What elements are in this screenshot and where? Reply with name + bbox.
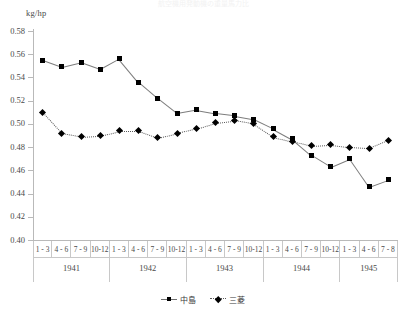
plot-area: [33, 31, 398, 240]
y-axis-tick-label: 0.58: [0, 26, 25, 36]
x-axis-quarter-label: 10-12: [244, 241, 263, 258]
x-axis-quarter-label: 1 - 3: [340, 241, 359, 258]
y-axis-tick-label: 0.40: [0, 235, 25, 245]
quarter-label-band: 1 - 34 - 67 - 910-121 - 34 - 67 - 910-12…: [33, 241, 398, 258]
data-point-三菱: [193, 125, 200, 132]
year-label-band: 19411942194319441945: [33, 258, 398, 282]
data-point-中島: [213, 111, 218, 116]
y-axis-tick-label: 0.48: [0, 142, 25, 152]
data-point-三菱: [174, 130, 181, 137]
data-point-三菱: [308, 142, 315, 149]
y-axis-tick-label: 0.54: [0, 72, 25, 82]
x-axis-quarter-label: 7 - 9: [225, 241, 244, 258]
y-axis-tick-label: 0.46: [0, 165, 25, 175]
data-point-中島: [40, 58, 45, 63]
x-axis-year-label: 1943: [187, 258, 264, 282]
data-point-中島: [347, 156, 352, 161]
x-axis-quarter-label: 1 - 3: [264, 241, 283, 258]
x-axis-quarter-label: 7 - 9: [302, 241, 321, 258]
data-point-三菱: [385, 137, 392, 144]
data-point-三菱: [97, 132, 104, 139]
y-axis-tick-label: 0.42: [0, 211, 25, 221]
legend-marker-diamond-icon: [215, 296, 221, 302]
legend-line-swatch: [210, 298, 226, 300]
data-point-三菱: [135, 127, 142, 134]
x-axis-year-label: 1941: [33, 258, 110, 282]
x-axis-quarter-label: 4 - 6: [360, 241, 379, 258]
y-axis-tick-label: 0.56: [0, 49, 25, 59]
x-axis-quarter-label: 1 - 3: [33, 241, 52, 258]
y-axis-unit-label: kg/hp: [26, 8, 46, 18]
data-point-中島: [194, 107, 199, 112]
x-axis-year-label: 1942: [110, 258, 187, 282]
data-point-中島: [79, 60, 84, 65]
data-point-中島: [136, 80, 141, 85]
legend-marker-square-icon: [167, 297, 172, 302]
x-axis-quarter-label: 7 - 9: [71, 241, 90, 258]
data-point-中島: [328, 164, 333, 169]
y-axis-tick-label: 0.44: [0, 188, 25, 198]
x-axis-year-label: 1944: [264, 258, 341, 282]
data-point-中島: [59, 64, 64, 69]
chart-root: 航空機用発動機の重量馬力比 kg/hp 0.580.560.540.520.50…: [0, 0, 406, 310]
x-axis-quarter-label: 10-12: [91, 241, 110, 258]
data-point-中島: [155, 96, 160, 101]
x-axis-quarter-label: 4 - 6: [129, 241, 148, 258]
series-line-segment-中島: [349, 159, 369, 187]
data-point-三菱: [154, 134, 161, 141]
legend-label: 中島: [180, 294, 196, 305]
x-axis-quarter-label: 10-12: [167, 241, 186, 258]
legend-item-中島[interactable]: 中島: [161, 294, 196, 305]
x-axis-year-label: 1945: [340, 258, 398, 282]
data-point-三菱: [77, 133, 84, 140]
legend-line-swatch: [161, 299, 177, 300]
data-point-三菱: [116, 127, 123, 134]
chart-legend: 中島三菱: [0, 292, 406, 306]
data-point-三菱: [270, 133, 277, 140]
chart-title: 航空機用発動機の重量馬力比: [0, 0, 406, 9]
data-point-中島: [117, 56, 122, 61]
data-point-三菱: [327, 141, 334, 148]
legend-item-三菱[interactable]: 三菱: [210, 294, 245, 305]
data-point-三菱: [346, 144, 353, 151]
data-point-中島: [271, 126, 276, 131]
x-axis-quarter-label: 7 - 8: [379, 241, 398, 258]
y-axis-tick-label: 0.52: [0, 95, 25, 105]
x-axis-quarter-label: 7 - 9: [148, 241, 167, 258]
x-axis-quarter-label: 4 - 6: [283, 241, 302, 258]
series-line-segment-三菱: [42, 112, 62, 134]
data-point-三菱: [58, 130, 65, 137]
x-axis-quarter-label: 4 - 6: [52, 241, 71, 258]
data-point-中島: [386, 177, 391, 182]
x-axis-quarter-label: 10-12: [321, 241, 340, 258]
x-axis-quarter-label: 4 - 6: [206, 241, 225, 258]
data-point-三菱: [212, 119, 219, 126]
data-point-中島: [367, 184, 372, 189]
data-point-中島: [175, 111, 180, 116]
data-point-中島: [98, 67, 103, 72]
y-axis-tick-label: 0.50: [0, 118, 25, 128]
x-axis-quarter-label: 1 - 3: [110, 241, 129, 258]
x-axis-quarter-label: 1 - 3: [187, 241, 206, 258]
data-point-中島: [309, 153, 314, 158]
legend-label: 三菱: [229, 294, 245, 305]
